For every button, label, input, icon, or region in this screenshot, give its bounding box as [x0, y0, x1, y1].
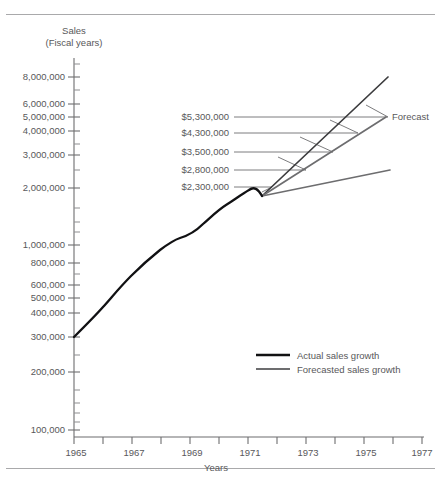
- forecast-series: [262, 77, 390, 196]
- y-tick-label: 6,000,000: [23, 98, 65, 109]
- chart-legend: Actual sales growth Forecasted sales gro…: [256, 350, 401, 375]
- x-tick-label: 1975: [355, 447, 376, 458]
- y-tick-label: 400,000: [31, 307, 65, 318]
- callout-label: $2,800,000: [181, 164, 229, 175]
- y-tick-label: 200,000: [31, 366, 65, 377]
- x-tick-label: 1971: [239, 447, 260, 458]
- legend-label-forecast: Forecasted sales growth: [297, 364, 401, 375]
- y-axis-title: Sales: [62, 25, 86, 36]
- callout-label: $5,300,000: [181, 111, 229, 122]
- callout-label: $2,300,000: [181, 181, 229, 192]
- actual-sales-line: [74, 188, 262, 337]
- y-tick-label: 300,000: [31, 331, 65, 342]
- x-tick-label: 1965: [65, 447, 86, 458]
- x-tick-label: 1967: [123, 447, 144, 458]
- sales-forecast-chart: Sales (Fiscal years): [0, 0, 441, 480]
- y-tick-label: 3,000,000: [23, 149, 65, 160]
- y-tick-label: 500,000: [31, 292, 65, 303]
- y-tick-label: 8,000,000: [23, 71, 65, 82]
- y-axis-minor-ticks: [74, 64, 80, 422]
- y-axis-subtitle: (Fiscal years): [45, 37, 102, 48]
- callout-leader-lines: [234, 105, 388, 192]
- forecast-annotation-label: Forecast: [392, 111, 429, 122]
- x-axis-title: Years: [204, 462, 228, 473]
- x-tick-label: 1977: [411, 447, 432, 458]
- y-tick-label: 2,000,000: [23, 182, 65, 193]
- callout-label: $4,300,000: [181, 127, 229, 138]
- forecast-line-high: [262, 77, 388, 196]
- y-tick-label: 1,000,000: [23, 239, 65, 250]
- x-tick-label: 1969: [181, 447, 202, 458]
- callout-label: $3,500,000: [181, 146, 229, 157]
- y-tick-label: 800,000: [31, 257, 65, 268]
- x-axis-ticks: [74, 437, 422, 444]
- x-tick-label: 1973: [297, 447, 318, 458]
- y-tick-label: 600,000: [31, 279, 65, 290]
- y-tick-label: 100,000: [31, 424, 65, 435]
- legend-label-actual: Actual sales growth: [297, 350, 379, 361]
- y-tick-label: 4,000,000: [23, 125, 65, 136]
- y-tick-label: 5,000,000: [23, 111, 65, 122]
- sales-forecast-figure: Sales (Fiscal years): [0, 0, 441, 480]
